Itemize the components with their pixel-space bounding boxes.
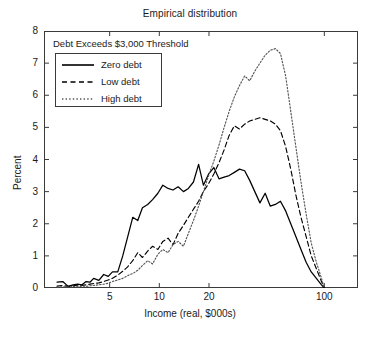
y-axis-tick-label: 4 (16, 154, 38, 165)
chart-legend: Zero debtLow debtHigh debt (55, 53, 162, 107)
legend-item: Zero debt (60, 56, 160, 74)
legend-label: Low debt (101, 76, 140, 87)
x-axis-tick-label: 20 (194, 291, 224, 302)
legend-line-swatch-dashed (60, 73, 96, 91)
chart-annotation: Debt Exceeds $3,000 Threshold (53, 38, 189, 49)
legend-line-swatch-solid (60, 56, 96, 74)
x-axis-label: Income (real, $000s) (0, 308, 380, 319)
x-axis-tick-label: 100 (309, 291, 339, 302)
legend-label: High debt (101, 93, 142, 104)
legend-line-swatch-dotted (60, 90, 96, 108)
y-axis-tick-label: 5 (16, 121, 38, 132)
chart-figure: Empirical distribution Percent Income (r… (0, 0, 380, 339)
series-line-low-debt (57, 118, 324, 288)
y-axis-tick-label: 7 (16, 57, 38, 68)
legend-item: High debt (60, 90, 160, 108)
y-axis-tick-label: 2 (16, 218, 38, 229)
y-axis-tick-label: 0 (16, 282, 38, 293)
y-axis-tick-label: 8 (16, 25, 38, 36)
x-axis-tick-label: 5 (95, 291, 125, 302)
y-axis-tick-label: 6 (16, 89, 38, 100)
x-axis-tick-label: 10 (144, 291, 174, 302)
y-axis-tick-label: 3 (16, 186, 38, 197)
legend-label: Zero debt (101, 59, 142, 70)
legend-item: Low debt (60, 73, 160, 91)
chart-title: Empirical distribution (0, 8, 380, 19)
y-axis-tick-label: 1 (16, 250, 38, 261)
